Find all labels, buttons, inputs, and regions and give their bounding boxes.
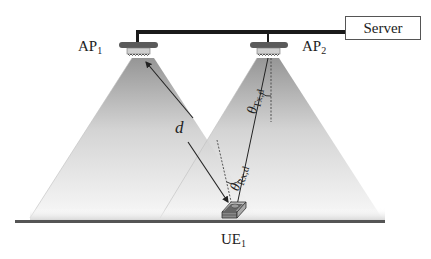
floor-line	[15, 220, 385, 223]
ue1-label: UE1	[221, 231, 246, 249]
ap2-label: AP2	[302, 38, 326, 56]
floor-illumination	[30, 208, 385, 220]
ap2-device-icon	[250, 42, 288, 56]
distance-label: d	[175, 118, 184, 138]
server-box: Server	[345, 16, 421, 40]
server-label: Server	[363, 20, 402, 37]
ap1-label: AP1	[78, 38, 102, 56]
ap1-device-icon	[119, 42, 158, 56]
